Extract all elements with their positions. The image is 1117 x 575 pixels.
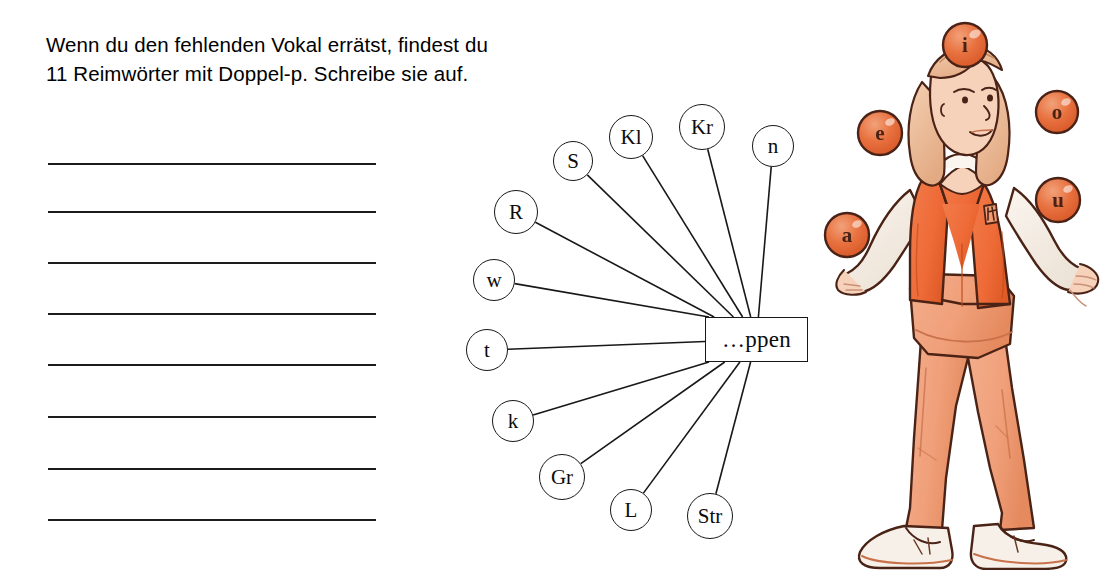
- answer-line-6[interactable]: [48, 416, 376, 418]
- word-web-center-box: …ppen: [705, 317, 808, 362]
- worksheet-page: Wenn du den fehlenden Vokal errätst, fin…: [0, 0, 1117, 575]
- answer-line-7[interactable]: [48, 468, 376, 470]
- word-web-node-Str[interactable]: Str: [687, 493, 733, 539]
- word-web-node-n[interactable]: n: [752, 125, 794, 167]
- ball-a-shape: [825, 213, 869, 257]
- word-web-node-Kr[interactable]: Kr: [679, 104, 725, 150]
- word-web-node-label: L: [625, 499, 638, 520]
- answer-line-4[interactable]: [48, 313, 376, 315]
- word-web-node-label: n: [768, 135, 779, 156]
- ball-i-shape: [943, 23, 987, 67]
- word-web-node-w[interactable]: w: [473, 259, 515, 301]
- word-web-node-k[interactable]: k: [492, 400, 534, 442]
- word-web-line-t: [508, 342, 705, 350]
- answer-line-5[interactable]: [48, 364, 376, 366]
- word-web-line-k: [533, 362, 709, 415]
- word-web-line-w: [515, 284, 709, 317]
- word-web-node-label: t: [484, 339, 490, 360]
- word-web-line-Str: [716, 362, 751, 494]
- word-web-node-R[interactable]: R: [494, 190, 538, 234]
- word-web-node-label: Str: [698, 505, 723, 526]
- juggler-drawing: [818, 8, 1110, 570]
- word-web-node-label: w: [486, 269, 501, 290]
- word-web-node-label: Kl: [621, 126, 642, 147]
- word-web-diagram: …ppen SKlKrnRwtkGrLStr: [440, 90, 820, 560]
- word-web-node-t[interactable]: t: [466, 329, 508, 371]
- answer-line-1[interactable]: [48, 163, 376, 165]
- word-web-line-Kr: [708, 149, 751, 317]
- word-web-node-Kl[interactable]: Kl: [609, 115, 653, 159]
- answer-line-2[interactable]: [48, 211, 376, 213]
- word-web-node-label: Kr: [691, 116, 713, 137]
- word-web-node-S[interactable]: S: [553, 141, 593, 181]
- answer-line-8[interactable]: [48, 519, 376, 521]
- answer-lines-area: [0, 0, 430, 575]
- word-web-line-Kl: [643, 156, 743, 317]
- word-web-node-L[interactable]: L: [610, 489, 652, 531]
- word-web-line-L: [643, 362, 740, 493]
- word-web-line-n: [758, 167, 771, 317]
- word-web-line-S: [587, 175, 733, 317]
- word-web-center-label: …ppen: [722, 327, 791, 353]
- word-web-node-label: R: [509, 201, 523, 222]
- ball-e-shape: [858, 111, 902, 155]
- answer-line-3[interactable]: [48, 262, 376, 264]
- word-web-node-Gr[interactable]: Gr: [539, 454, 585, 500]
- word-web-node-label: k: [508, 410, 519, 431]
- ball-o-shape: [1036, 91, 1078, 133]
- ball-u-shape: [1036, 178, 1080, 222]
- word-web-node-label: S: [567, 150, 579, 171]
- juggler-illustration: ioeua: [818, 8, 1110, 570]
- word-web-node-label: Gr: [551, 466, 573, 487]
